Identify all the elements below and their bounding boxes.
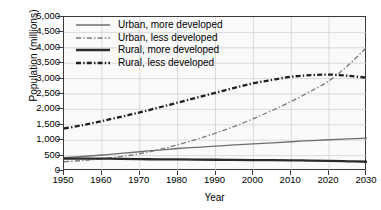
legend-label: Rural, less developed: [118, 57, 214, 69]
legend-swatch-rural-less-developed: [75, 58, 111, 68]
legend-swatch-urban-more-developed: [75, 20, 111, 30]
x-tick-label: 2020: [308, 174, 348, 185]
y-tick-label: 5,000: [10, 11, 60, 21]
legend-swatch-rural-more-developed: [75, 45, 111, 55]
y-tick-label: 1,500: [10, 119, 60, 129]
y-tick-label: 4,500: [10, 26, 60, 36]
x-tick-label: 2030: [346, 174, 381, 185]
x-tick-label: 2010: [270, 174, 310, 185]
legend-label: Urban, more developed: [118, 19, 223, 31]
x-tick-label: 1980: [157, 174, 197, 185]
x-tick-label: 1990: [195, 174, 235, 185]
series-line: [64, 138, 367, 158]
x-tick-label: 1970: [119, 174, 159, 185]
y-tick-label: 1,000: [10, 134, 60, 144]
series-line: [64, 159, 367, 162]
x-tick-label: 2000: [232, 174, 272, 185]
x-tick-label: 1950: [43, 174, 83, 185]
legend-item[interactable]: Rural, more developed: [75, 44, 223, 57]
y-tick-label: 3,500: [10, 57, 60, 67]
legend-item[interactable]: Urban, less developed: [75, 32, 223, 45]
chart-legend: Urban, more developed Urban, less develo…: [75, 19, 223, 69]
y-tick-label: 3,000: [10, 73, 60, 83]
y-tick-label: 500: [10, 150, 60, 160]
legend-swatch-urban-less-developed: [75, 33, 111, 43]
legend-label: Urban, less developed: [118, 32, 218, 44]
x-axis-title: Year: [63, 192, 366, 203]
y-tick-label: 2,000: [10, 103, 60, 113]
x-tick-label: 1960: [81, 174, 121, 185]
y-tick-label: 2,500: [10, 88, 60, 98]
legend-item[interactable]: Rural, less developed: [75, 57, 223, 70]
legend-item[interactable]: Urban, more developed: [75, 19, 223, 32]
series-line: [64, 75, 367, 129]
legend-label: Rural, more developed: [118, 44, 219, 56]
y-tick-label: 4,000: [10, 42, 60, 52]
